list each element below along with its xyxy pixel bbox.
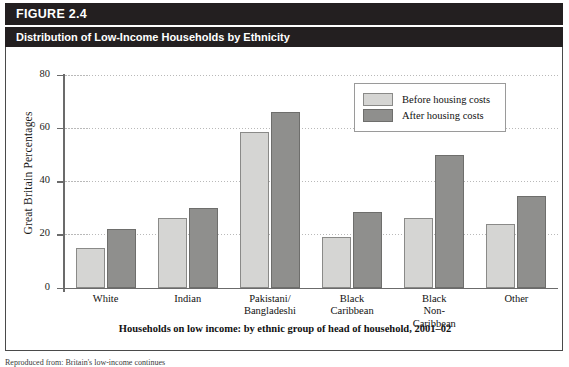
x-axis-label-line: Black [393,293,475,306]
x-axis-category-label: White [65,293,147,306]
y-axis-title: Great Britain Percentages [22,68,34,278]
chart-legend: Before housing costs After housing costs [354,83,506,133]
x-axis-label-line: Non- [393,305,475,318]
gridline [65,234,558,235]
chart-caption: Households on low income: by ethnic grou… [6,323,564,334]
x-axis-label-line: White [65,293,147,306]
legend-swatch-after-icon [363,109,393,122]
bar-after [107,229,136,287]
figure-container: FIGURE 2.4 Distribution of Low-Income Ho… [5,3,563,351]
y-axis-tick-label: 40 [20,174,50,185]
y-axis-tick-label: 80 [20,68,50,79]
figure-subtitle-label: Distribution of Low-Income Households by… [16,31,290,43]
bar-before [322,237,351,287]
bar-after [271,112,300,287]
bar-after [189,208,218,288]
y-axis-tick-label: 20 [20,227,50,238]
x-axis-category-label: Indian [147,293,229,306]
chart-panel: Great Britain Percentages 020406080 Whit… [5,47,563,352]
bar-after [353,212,382,288]
x-axis-label-line: Caribbean [311,305,393,318]
plot-area: Great Britain Percentages 020406080 Whit… [6,47,564,352]
figure-number-label: FIGURE 2.4 [16,7,87,21]
x-axis-label-line: Bangladeshi [229,305,311,318]
x-axis-label-line: Indian [147,293,229,306]
x-axis-label-line: Pakistani/ [229,293,311,306]
x-axis-label-line: Black [311,293,393,306]
y-axis-line [63,74,65,292]
x-axis-label-line: Other [475,293,557,306]
bar-before [158,218,187,287]
legend-label: Before housing costs [402,94,490,105]
bar-before [76,248,105,288]
bar-after [435,155,464,288]
legend-item: After housing costs [363,109,497,122]
figure-subtitle-header: Distribution of Low-Income Households by… [5,27,563,47]
legend-swatch-before-icon [363,93,393,106]
source-note-clipped: Reproduced from: Britain's low-income co… [5,358,525,367]
gridline [65,75,558,76]
x-axis-category-label: BlackCaribbean [311,293,393,318]
bar-before [486,224,515,288]
y-axis-tick-label: 60 [20,121,50,132]
legend-item: Before housing costs [363,93,497,106]
bar-after [517,196,546,288]
y-axis-tick-label: 0 [20,281,50,292]
bar-before [240,132,269,287]
x-axis-category-label: Pakistani/Bangladeshi [229,293,311,318]
x-axis-line [63,288,558,290]
bar-before [404,218,433,287]
gridline [65,181,558,182]
legend-label: After housing costs [402,110,484,121]
figure-number-header: FIGURE 2.4 [5,3,563,25]
x-axis-category-label: Other [475,293,557,306]
